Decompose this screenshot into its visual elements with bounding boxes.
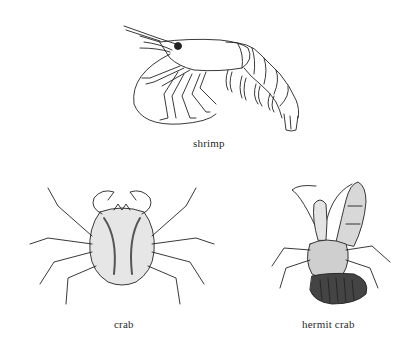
- hermit-crab-icon: [262, 176, 407, 311]
- shrimp-figure: [120, 14, 320, 134]
- crab-label: crab: [114, 318, 134, 330]
- crab-figure: [18, 178, 228, 308]
- shrimp-icon: [120, 14, 320, 134]
- hermit-crab-figure: [262, 176, 407, 311]
- hermit-crab-label: hermit crab: [302, 318, 355, 330]
- crab-icon: [18, 178, 228, 308]
- shrimp-label: shrimp: [193, 137, 225, 149]
